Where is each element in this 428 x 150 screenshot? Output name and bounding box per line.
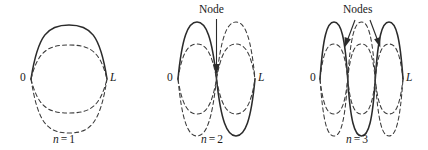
- nodes-arrow-n3-right: [370, 20, 380, 48]
- curve-n3-dashed-reduced-b: [320, 44, 403, 114]
- panel-n3-mode-label: n=3: [346, 134, 368, 146]
- panel-n1-curves: [31, 25, 107, 133]
- panel-n2-mode-value: 2: [217, 133, 223, 145]
- wave-curves-svg: [0, 0, 428, 150]
- panel-n1-mode-eq: =: [59, 133, 70, 145]
- curve-n3-dashed-reduced-a: [320, 44, 403, 114]
- panel-n2-length-label: L: [258, 72, 264, 84]
- panel-n1-mode-n: n: [53, 133, 59, 145]
- panel-n1-length-label: L: [110, 72, 116, 84]
- curve-n1-dashed-full-down: [31, 79, 107, 133]
- curve-n1-dashed-reduced-down: [31, 79, 107, 113]
- panel-n2-origin-label: 0: [167, 72, 173, 84]
- panel-n3-mode-value: 3: [362, 133, 368, 145]
- panel-n3-length-label: L: [406, 72, 412, 84]
- panel-n3-curves: [320, 22, 403, 136]
- node-arrow-n2: [213, 19, 220, 74]
- curve-n1-dashed-reduced-up: [31, 45, 107, 79]
- panel-n2-mode-n: n: [201, 133, 207, 145]
- curve-n3-solid: [320, 22, 403, 136]
- panel-n1-origin-label: 0: [20, 72, 26, 84]
- panel-n3-origin-label: 0: [310, 72, 316, 84]
- panel-n2-node-annotation: Node: [199, 4, 224, 16]
- panel-n3-mode-eq: =: [352, 133, 363, 145]
- panel-n3-nodes-annotation: Nodes: [343, 4, 372, 16]
- standing-wave-figure: 0 L n=1 Node 0 L n=2 Nodes 0 L n=3: [0, 0, 428, 150]
- panel-n2-mode-eq: =: [207, 133, 218, 145]
- panel-n3-mode-n: n: [346, 133, 352, 145]
- panel-n2-mode-label: n=2: [201, 134, 223, 146]
- panel-n1-mode-value: 1: [69, 133, 75, 145]
- panel-n1-mode-label: n=1: [53, 134, 75, 146]
- curve-n3-dashed-full-mirror: [320, 22, 403, 136]
- curve-n1-solid: [31, 25, 107, 79]
